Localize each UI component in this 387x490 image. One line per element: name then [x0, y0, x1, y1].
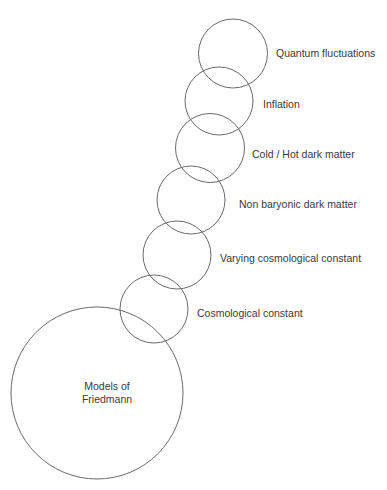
circle-inflation [185, 67, 253, 135]
label-quantum-fluctuations: Quantum fluctuations [276, 47, 375, 59]
label-friedmann-line1: Models of [82, 380, 132, 393]
label-inflation: Inflation [263, 98, 300, 110]
label-cold-hot-dark-matter: Cold / Hot dark matter [252, 148, 355, 160]
circles-diagram [0, 0, 387, 490]
label-friedmann-line2: Friedmann [82, 393, 132, 406]
label-varying-cosmological-constant: Varying cosmological constant [220, 252, 361, 264]
circle-cosmological-constant [120, 275, 188, 343]
circle-quantum-fluctuations [199, 19, 268, 88]
label-friedmann: Models of Friedmann [82, 380, 132, 406]
label-cosmological-constant: Cosmological constant [197, 307, 303, 319]
label-non-baryonic-dark-matter: Non baryonic dark matter [239, 198, 357, 210]
